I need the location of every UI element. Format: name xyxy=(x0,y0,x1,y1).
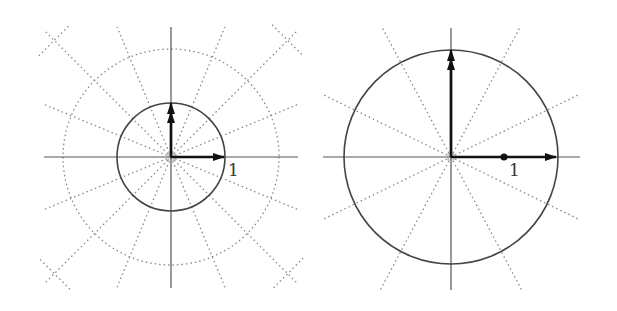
left-unit-label: 1 xyxy=(228,160,239,180)
dotted-ray xyxy=(323,95,451,157)
unit-point-dot xyxy=(501,154,508,161)
left-panel-diagram xyxy=(39,25,303,289)
dotted-ray xyxy=(44,157,171,284)
dotted-ray xyxy=(171,30,298,157)
dotted-ray xyxy=(451,28,520,157)
dotted-ray xyxy=(171,104,298,157)
dotted-ray xyxy=(382,28,451,157)
diagram-canvas xyxy=(0,0,617,311)
dotted-ray xyxy=(44,30,171,157)
dotted-ray xyxy=(451,94,580,157)
dotted-ray xyxy=(44,157,171,210)
dotted-ray xyxy=(323,157,451,219)
dotted-ray xyxy=(381,157,451,289)
right-unit-label: 1 xyxy=(509,160,520,180)
right-panel-diagram xyxy=(323,28,580,290)
